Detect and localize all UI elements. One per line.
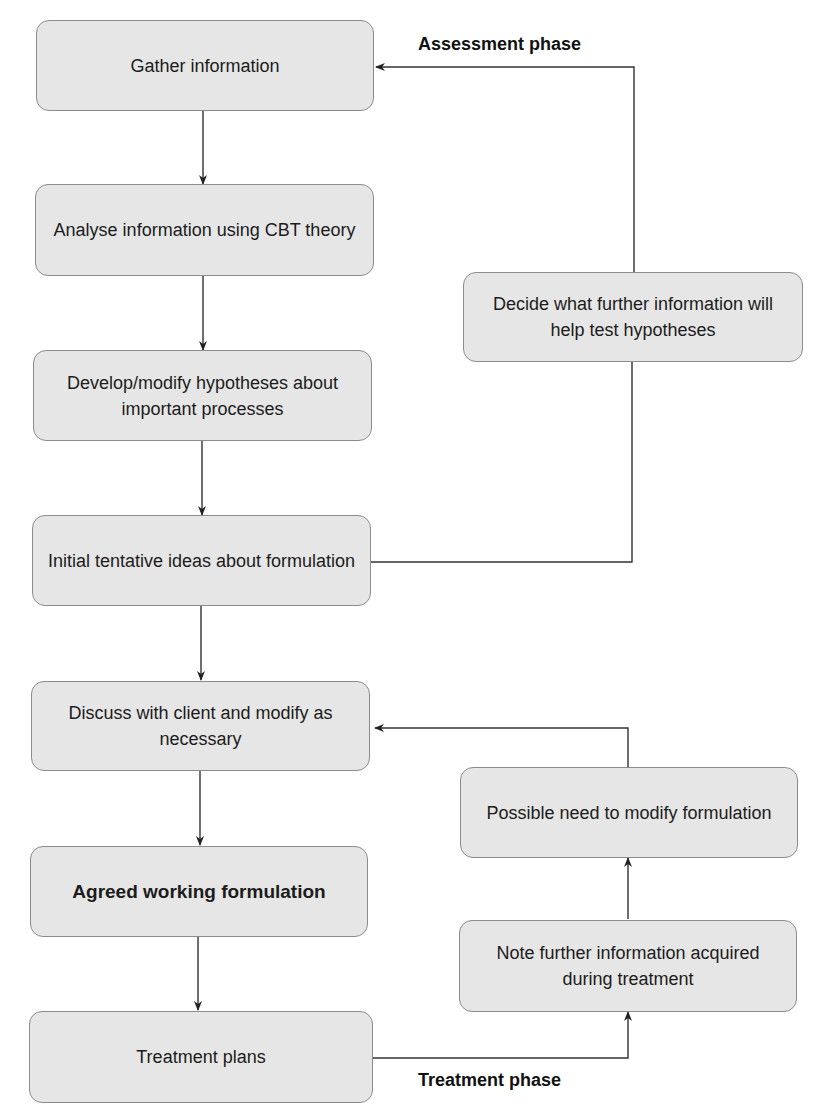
node-label: Note further information acquired during… (470, 940, 786, 992)
node-treatment-plans: Treatment plans (29, 1011, 373, 1103)
node-possible-need-to-modify: Possible need to modify formulation (460, 767, 798, 858)
node-initial-ideas: Initial tentative ideas about formulatio… (32, 515, 371, 606)
node-label: Analyse information using CBT theory (54, 217, 356, 243)
assessment-phase-label: Assessment phase (418, 34, 581, 55)
node-label: Gather information (130, 53, 279, 79)
node-label: Discuss with client and modify as necess… (42, 700, 359, 752)
node-agreed-working-formulation: Agreed working formulation (30, 846, 368, 937)
node-analyse-information: Analyse information using CBT theory (35, 184, 374, 276)
node-label: Decide what further information will hel… (474, 291, 792, 343)
node-discuss-with-client: Discuss with client and modify as necess… (31, 681, 370, 771)
node-label: Agreed working formulation (72, 879, 325, 905)
node-gather-information: Gather information (36, 20, 374, 111)
node-label: Initial tentative ideas about formulatio… (48, 548, 355, 574)
node-label: Treatment plans (136, 1044, 265, 1070)
node-develop-hypotheses: Develop/modify hypotheses about importan… (33, 350, 372, 441)
node-note-further-information: Note further information acquired during… (459, 920, 797, 1012)
treatment-phase-label: Treatment phase (418, 1070, 561, 1091)
node-decide-further-information: Decide what further information will hel… (463, 272, 803, 362)
node-label: Possible need to modify formulation (486, 800, 771, 826)
node-label: Develop/modify hypotheses about importan… (44, 370, 361, 422)
